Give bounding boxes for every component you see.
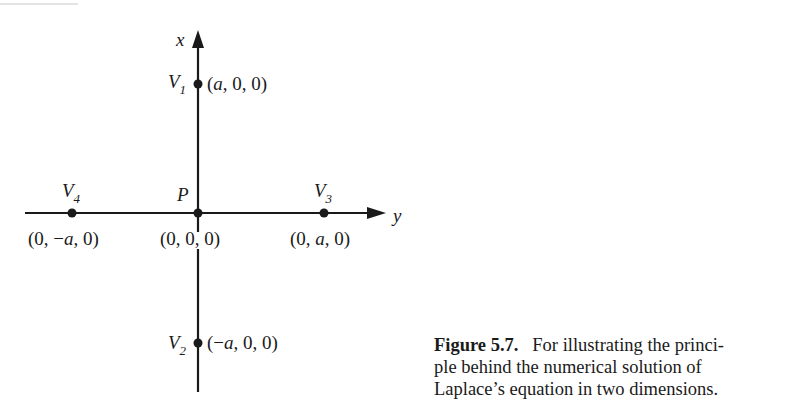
- caption-line-1: Figure 5.7. For illustrating the princi-: [434, 334, 802, 356]
- point-p: [194, 209, 203, 218]
- x-axis-arrow-icon: [192, 30, 204, 48]
- v1-coord: (a, 0, 0): [207, 74, 267, 93]
- caption-text-1: For illustrating the princi-: [532, 335, 724, 355]
- caption-figure-label: Figure 5.7.: [434, 335, 518, 355]
- y-axis-label: y: [393, 206, 401, 225]
- y-axis-arrow-icon: [367, 207, 386, 219]
- point-v1: [194, 80, 203, 89]
- point-v4: [68, 209, 77, 218]
- point-v2: [194, 339, 203, 348]
- x-axis-label: x: [176, 30, 184, 49]
- v4-coord: (0, −a, 0): [28, 229, 99, 248]
- v1-label: V1: [168, 72, 186, 91]
- figure-caption: Figure 5.7. For illustrating the princi-…: [434, 334, 802, 400]
- point-v3: [320, 209, 329, 218]
- v2-coord: (−a, 0, 0): [207, 333, 278, 352]
- v4-label: V4: [62, 181, 80, 200]
- v2-label: V2: [168, 333, 186, 352]
- v3-coord: (0, a, 0): [290, 229, 350, 248]
- v3-label: V3: [314, 181, 332, 200]
- caption-line-3: Laplace’s equation in two dimensions.: [434, 378, 802, 400]
- caption-line-2: ple behind the numerical solution of: [434, 356, 802, 378]
- p-coord: (0, 0, 0): [160, 229, 220, 248]
- p-label: P: [177, 185, 189, 204]
